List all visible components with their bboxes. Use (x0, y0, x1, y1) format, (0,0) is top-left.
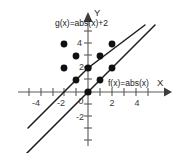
x-tick-label-pos4: 4 (134, 98, 139, 108)
x-axis-label: X (157, 77, 164, 88)
annotation-f-function: f(x)=abs(x) (108, 78, 149, 88)
data-point-g-neg2 (61, 41, 68, 48)
data-point-g-pos1 (97, 53, 104, 60)
absolute-value-graph: Y X -4 -2 2 4 0 4 2 -2 g(x)=abs(x)+2 f(x… (0, 0, 176, 153)
curve-g-abs-x-plus-2 (28, 25, 145, 128)
coordinate-plane-svg: Y X -4 -2 2 4 0 4 2 -2 g(x)=abs(x)+2 f(x… (0, 0, 176, 153)
data-point-f-zero (84, 88, 91, 95)
x-tick-label-neg4: -4 (32, 98, 40, 108)
data-point-f-pos2 (109, 65, 116, 72)
y-tick-label-pos4: 4 (77, 38, 82, 48)
origin-label: 0 (78, 96, 83, 106)
y-axis-label: Y (94, 7, 101, 18)
data-point-g-pos2 (109, 41, 116, 48)
data-point-f-neg1 (73, 77, 80, 84)
data-point-f-pos1 (97, 77, 104, 84)
annotation-g-function: g(x)=abs(x)+2 (55, 18, 108, 28)
x-tick-label-pos2: 2 (109, 98, 114, 108)
y-tick-label-pos2: 2 (79, 62, 84, 72)
data-point-g-zero (84, 64, 91, 71)
y-tick-label-neg2: -2 (76, 112, 84, 122)
x-tick-label-neg2: -2 (57, 98, 65, 108)
x-axis-arrow-icon (164, 88, 172, 97)
data-point-g-neg1 (73, 53, 80, 60)
data-point-f-neg2 (61, 65, 68, 72)
